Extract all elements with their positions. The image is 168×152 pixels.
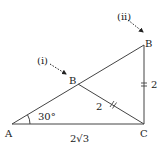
angle-arc-a — [28, 115, 31, 124]
label-side-ac: 2√3 — [70, 133, 89, 144]
label-case-ii: (ii) — [117, 11, 131, 22]
label-point-b-ii: B — [145, 38, 152, 49]
label-case-i: (i) — [37, 55, 48, 66]
label-side-bc-i: 2 — [96, 101, 102, 112]
label-point-b-i: B — [69, 75, 76, 86]
label-point-a: A — [4, 128, 13, 139]
triangle-diagram: (i) (ii) B B A C 30° 2√3 2 2 — [0, 0, 168, 152]
side-bc-i — [78, 84, 144, 124]
label-side-bc-ii: 2 — [151, 79, 157, 90]
label-point-c: C — [140, 128, 148, 139]
pointer-arrow-i — [50, 64, 66, 74]
diagram-canvas: (i) (ii) B B A C 30° 2√3 2 2 — [0, 0, 168, 152]
label-angle-a: 30° — [38, 111, 56, 122]
